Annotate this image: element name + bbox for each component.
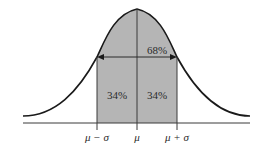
label-68-percent: 68% bbox=[147, 44, 167, 56]
tick-label-mu-plus-sigma: μ + σ bbox=[164, 131, 189, 143]
label-34-percent-left: 34% bbox=[107, 89, 127, 101]
normal-distribution-diagram: 68% 34% 34% μ − σ μ μ + σ bbox=[0, 0, 263, 153]
tick-label-mu: μ bbox=[133, 131, 140, 143]
label-34-percent-right: 34% bbox=[147, 89, 167, 101]
tick-label-mu-minus-sigma: μ − σ bbox=[84, 131, 109, 143]
